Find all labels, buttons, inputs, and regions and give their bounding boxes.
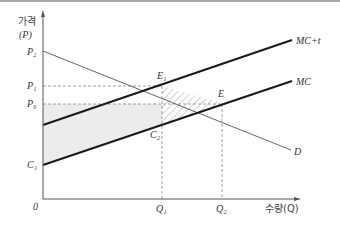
y-axis-sublabel: (P)	[19, 29, 32, 41]
p0-label: P₀	[26, 98, 37, 109]
y-axis-label: 가격	[18, 15, 36, 27]
y-axis-arrow	[41, 10, 45, 17]
q1-label: Q₁	[156, 203, 167, 214]
q2-label: Q₂	[216, 203, 227, 214]
e1-label: E₁	[156, 70, 167, 81]
origin-label: 0	[33, 201, 38, 212]
p2-label: P₂	[26, 46, 37, 57]
hatched-triangle	[162, 86, 222, 126]
shaded-region	[43, 104, 162, 165]
c2-label: C₂	[150, 129, 161, 140]
demand-label: D	[293, 146, 302, 157]
c1-label: C₁	[27, 159, 37, 170]
mc-plus-t-label: MC+t	[295, 35, 321, 46]
x-axis-label: 수량(Q)	[265, 203, 299, 214]
economics-diagram: 가격 (P) 수량(Q) 0 P₂ P₁ P₀ C₁ Q₁ Q₂ MC+t MC…	[0, 0, 340, 229]
mc-label: MC	[295, 76, 311, 87]
x-axis-arrow	[294, 197, 301, 201]
p1-label: P₁	[26, 80, 37, 91]
e-label: E	[217, 88, 224, 99]
